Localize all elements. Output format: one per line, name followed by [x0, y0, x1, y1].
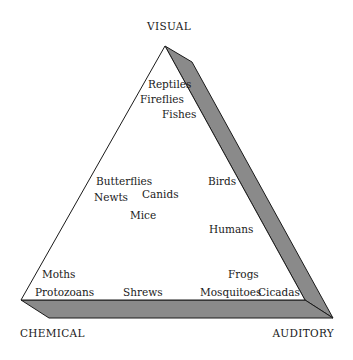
item-fishes: Fishes [162, 108, 196, 120]
item-newts: Newts [94, 191, 128, 203]
item-reptiles: Reptiles [148, 78, 191, 90]
vertex-label-chemical: CHEMICAL [20, 327, 85, 339]
item-mosquitoes: Mosquitoes [200, 286, 261, 298]
item-moths: Moths [42, 268, 75, 280]
item-frogs: Frogs [228, 268, 259, 280]
item-canids: Canids [142, 188, 179, 200]
sensory-triangle-diagram: VISUAL CHEMICAL AUDITORY Reptiles Firefl… [0, 0, 353, 360]
item-shrews: Shrews [123, 286, 163, 298]
vertex-label-visual: VISUAL [146, 20, 191, 32]
triangle-shadow-bottom [21, 300, 333, 318]
item-protozoans: Protozoans [35, 286, 94, 298]
vertex-label-auditory: AUDITORY [271, 327, 334, 339]
item-butterflies: Butterflies [96, 175, 152, 187]
item-birds: Birds [208, 175, 236, 187]
item-fireflies: Fireflies [140, 93, 184, 105]
item-humans: Humans [209, 223, 253, 235]
item-cicadas: Cicadas [258, 286, 300, 298]
item-mice: Mice [130, 209, 156, 221]
